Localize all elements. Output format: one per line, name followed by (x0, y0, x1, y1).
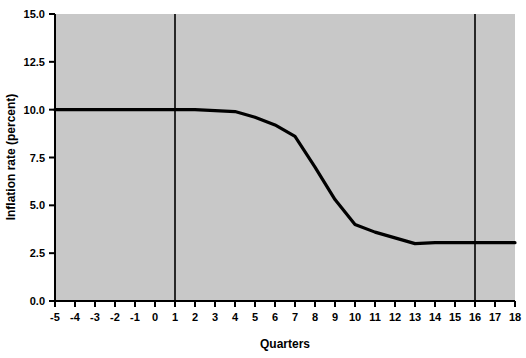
x-tick-label: 3 (212, 311, 218, 323)
y-tick-label: 15.0 (24, 8, 45, 20)
x-tick-label: -3 (90, 311, 100, 323)
y-tick-label: 7.5 (30, 152, 45, 164)
x-tick-label: 18 (509, 311, 521, 323)
x-tick-label: 5 (252, 311, 258, 323)
x-tick-label: 13 (409, 311, 421, 323)
inflation-rate-line-chart: 0.02.55.07.510.012.515.0 -5-4-3-2-101234… (0, 0, 526, 358)
y-tick-label: 5.0 (30, 199, 45, 211)
x-tick-label: 10 (349, 311, 361, 323)
x-tick-label: 17 (489, 311, 501, 323)
x-tick-label: 15 (449, 311, 461, 323)
x-tick-label: 7 (292, 311, 298, 323)
x-tick-label: 1 (172, 311, 178, 323)
plot-area-background (55, 14, 515, 301)
x-tick-label: 11 (369, 311, 381, 323)
y-tick-label: 0.0 (30, 295, 45, 307)
x-tick-label: 14 (429, 311, 442, 323)
x-tick-label: 16 (469, 311, 481, 323)
chart-canvas: 0.02.55.07.510.012.515.0 -5-4-3-2-101234… (0, 0, 526, 358)
x-tick-label: 6 (272, 311, 278, 323)
y-tick-label: 12.5 (24, 56, 45, 68)
x-tick-label: 0 (152, 311, 158, 323)
x-tick-label: 2 (192, 311, 198, 323)
x-tick-label: 9 (332, 311, 338, 323)
x-tick-label: -5 (50, 311, 60, 323)
x-tick-label: 12 (389, 311, 401, 323)
y-tick-label: 2.5 (30, 247, 45, 259)
x-tick-label: -4 (70, 311, 81, 323)
y-axis-title: Inflation rate (percent) (4, 94, 18, 221)
x-tick-label: -2 (110, 311, 120, 323)
x-axis-title: Quarters (260, 337, 310, 351)
x-tick-label: 8 (312, 311, 318, 323)
y-tick-label: 10.0 (24, 104, 45, 116)
x-tick-label: -1 (130, 311, 140, 323)
x-tick-label: 4 (232, 311, 239, 323)
